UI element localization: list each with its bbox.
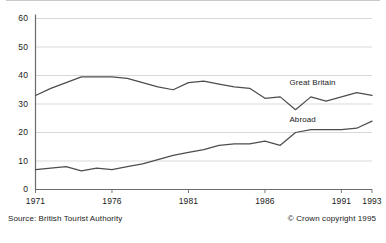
x-axis-tick-label: 1971 (19, 196, 53, 206)
chart-figure: 0102030405060 197119761981198619911993 G… (0, 0, 386, 243)
x-axis-tick-label: 1986 (248, 196, 282, 206)
y-axis-tick-label: 10 (6, 156, 28, 166)
x-axis-tick-label: 1993 (355, 196, 386, 206)
series-label-abroad: Abroad (289, 115, 315, 124)
y-axis-tick-label: 50 (6, 42, 28, 52)
series-label-great-britain: Great Britain (289, 78, 335, 87)
gridlines-group (36, 19, 373, 190)
x-axis-tick-label: 1991 (324, 196, 358, 206)
x-axis-tick-label: 1976 (95, 196, 129, 206)
series-line-abroad (36, 121, 373, 171)
source-note: Source: British Tourist Authority (8, 214, 122, 223)
copyright-note: © Crown copyright 1995 (288, 214, 376, 223)
y-axis-tick-label: 30 (6, 99, 28, 109)
y-axis-tick-label: 60 (6, 13, 28, 23)
data-series-group (36, 77, 373, 171)
y-axis-tick-label: 20 (6, 127, 28, 137)
y-axis-tick-label: 0 (6, 184, 28, 194)
y-axis-tick-label: 40 (6, 70, 28, 80)
x-axis-tick-label: 1981 (171, 196, 205, 206)
line-chart-plot (0, 0, 386, 243)
axes-group (36, 15, 373, 190)
